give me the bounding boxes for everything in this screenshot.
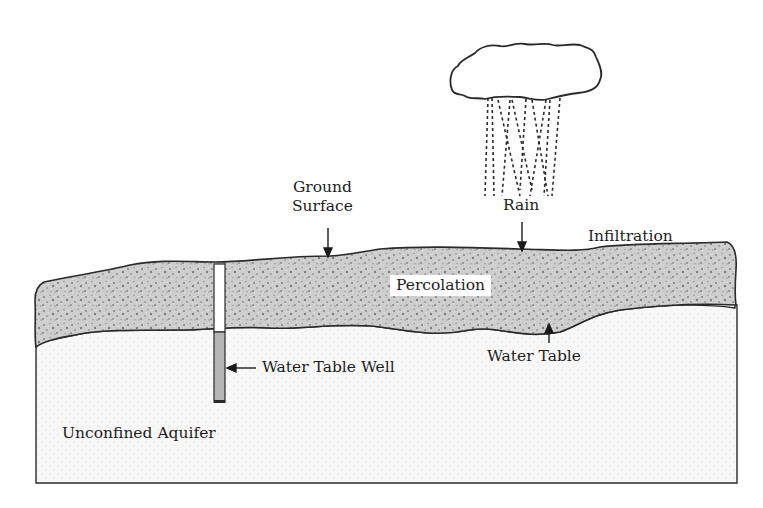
rain-streaks [485,98,560,196]
ground-surface-label-line1: Ground [292,178,353,197]
well-water-column [214,332,225,402]
well-casing [214,264,225,332]
unconfined-aquifer-region [36,305,737,483]
unconfined-aquifer-label: Unconfined Aquifer [62,424,216,443]
infiltration-label: Infiltration [588,227,673,246]
ground-surface-label-line2: Surface [292,197,353,216]
water-table-label: Water Table [487,347,581,366]
ground-surface-label: Ground Surface [292,178,353,215]
percolation-label: Percolation [390,275,491,296]
water-table-well-label: Water Table Well [262,358,395,377]
cloud-icon [450,44,601,101]
well-bottom-cap [214,400,225,403]
rain-label: Rain [503,196,539,215]
